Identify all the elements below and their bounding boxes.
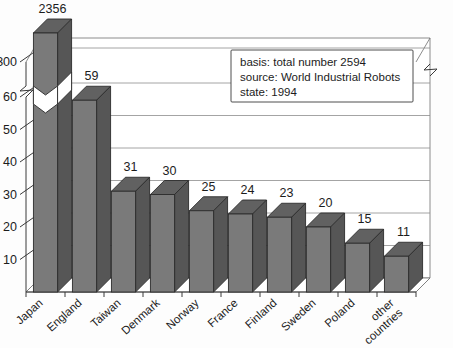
- category-label: Sweden: [279, 297, 318, 334]
- bar-value-label: 31: [124, 160, 138, 174]
- bar-finland: [267, 203, 305, 292]
- category-label: Taiwan: [88, 297, 123, 330]
- y-tick-label: 40: [3, 155, 17, 169]
- y-tick-label: 2300: [0, 55, 17, 69]
- bar-england: [72, 86, 110, 292]
- bar-side-face: [175, 181, 189, 293]
- category-label-text: Sweden: [279, 297, 318, 334]
- category-label: othercountries: [353, 296, 405, 346]
- bar-side-face: [331, 213, 345, 292]
- bar-side-face: [97, 86, 111, 292]
- bar-taiwan: [111, 177, 149, 292]
- y-tick-label: 10: [3, 253, 17, 267]
- category-label: France: [205, 297, 240, 330]
- bar-side-face: [136, 177, 150, 292]
- bar-value-label: 59: [85, 69, 99, 83]
- bar-norway: [189, 197, 227, 292]
- bar-front-face: [228, 214, 252, 292]
- bar-front-face: [33, 33, 57, 292]
- bar-chart-figure: 1020304050602300 2356593130252423201511 …: [0, 0, 453, 348]
- category-label: Japan: [14, 297, 45, 327]
- bar-value-label: 24: [241, 183, 255, 197]
- category-label-text: Finland: [243, 297, 279, 331]
- category-label: Finland: [243, 297, 279, 331]
- y-tick-label: 60: [3, 90, 17, 104]
- legend-line-state: state: 1994: [240, 86, 298, 98]
- bar-front-face: [267, 217, 291, 292]
- category-label-text: France: [205, 297, 240, 330]
- bar-denmark: [150, 181, 188, 293]
- bar-value-label: 25: [202, 180, 216, 194]
- category-label-text: England: [44, 297, 83, 334]
- legend-line-basis: basis: total number 2594: [240, 56, 367, 68]
- y-tick-label: 50: [3, 123, 17, 137]
- category-label-text: Norway: [164, 296, 201, 331]
- category-label: England: [44, 297, 83, 334]
- y-axis: [20, 62, 33, 292]
- x-tick-group: [26, 292, 416, 297]
- bar-front-face: [345, 243, 369, 292]
- bar-value-label: 30: [163, 164, 177, 178]
- category-label-text: Poland: [322, 297, 357, 330]
- category-label-group: JapanEnglandTaiwanDenmarkNorwayFranceFin…: [14, 296, 405, 346]
- legend-box: basis: total number 2594 source: World I…: [231, 50, 413, 102]
- bar-japan: [33, 19, 71, 292]
- bar-front-face: [189, 211, 213, 292]
- bar-value-label: 15: [358, 212, 372, 226]
- bar-side-face: [214, 197, 228, 292]
- bar-value-label: 11: [397, 225, 410, 239]
- bar-poland: [345, 229, 383, 292]
- category-label-text: Denmark: [119, 296, 162, 336]
- bar-front-face: [150, 195, 174, 293]
- bar-sweden: [306, 213, 344, 292]
- bar-front-face: [306, 227, 330, 292]
- bar-value-label: 2356: [39, 2, 67, 16]
- bar-value-label: 23: [280, 186, 294, 200]
- bar-front-face: [384, 256, 408, 292]
- bar-value-label: 20: [319, 196, 333, 210]
- bar-front-face: [72, 100, 96, 292]
- y-tick-label: 30: [3, 188, 17, 202]
- legend-line-source: source: World Industrial Robots: [240, 71, 400, 83]
- bar-side-face: [253, 200, 267, 292]
- bar-france: [228, 200, 266, 292]
- y-tick-label: 20: [3, 220, 17, 234]
- category-label: Poland: [322, 297, 357, 330]
- chart-canvas: 1020304050602300 2356593130252423201511 …: [0, 0, 453, 348]
- category-label: Norway: [164, 296, 201, 331]
- category-label: Denmark: [119, 296, 162, 336]
- category-label-text: Taiwan: [88, 297, 123, 330]
- bar-side-face: [58, 19, 72, 292]
- bar-front-face: [111, 191, 135, 292]
- category-label-text: Japan: [14, 297, 45, 327]
- bar-side-face: [292, 203, 306, 292]
